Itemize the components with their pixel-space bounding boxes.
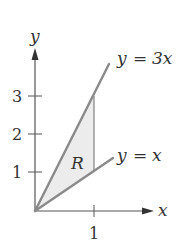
label-3x-eq: = <box>133 48 147 68</box>
label-x-eq: = <box>133 145 147 165</box>
x-axis-arrow-icon <box>142 208 154 215</box>
y-axis-arrow-icon <box>32 48 39 60</box>
label-x-lhs: y <box>116 145 127 165</box>
label-x-rhs: x <box>152 145 162 165</box>
y-tick-label-3: 3 <box>12 87 22 106</box>
y-tick-label-1: 1 <box>12 163 22 182</box>
label-y-equals-3x: y = 3x <box>116 48 173 68</box>
region-label: R <box>70 153 84 173</box>
x-tick-label-1: 1 <box>89 224 99 243</box>
label-y-equals-x: y = x <box>116 145 162 165</box>
y-axis-label: y <box>29 26 40 46</box>
x-axis-label: x <box>158 200 168 220</box>
region-diagram: y x 1 1 2 3 y = 3x y = x R <box>0 0 187 245</box>
y-tick-label-2: 2 <box>12 125 22 144</box>
label-3x-rhs: 3x <box>152 48 173 68</box>
curve-y-equals-3x <box>35 64 109 211</box>
label-3x-lhs: y <box>116 48 127 68</box>
